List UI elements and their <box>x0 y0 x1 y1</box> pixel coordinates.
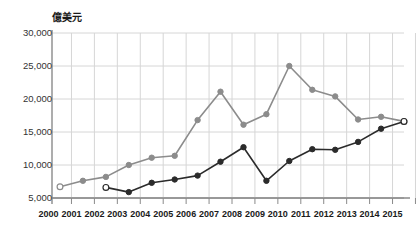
x-axis-tick-labels: 2000200120022003200420052006200720082009… <box>0 0 418 242</box>
x-axis-tick-label: 2012 <box>314 209 334 219</box>
x-axis-tick-label: 2004 <box>130 209 150 219</box>
x-axis-tick-label: 2009 <box>245 209 265 219</box>
x-axis-tick-label: 2011 <box>291 209 311 219</box>
x-axis-tick-label: 2003 <box>107 209 127 219</box>
line-chart: 億美元 30,00025,00020,00015,00010,0005,000 … <box>0 0 418 242</box>
x-axis-tick-label: 2014 <box>360 209 380 219</box>
x-axis-tick-label: 2015 <box>383 209 403 219</box>
x-axis-tick-label: 2002 <box>84 209 104 219</box>
x-axis-tick-label: 2005 <box>153 209 173 219</box>
x-axis-tick-label: 2008 <box>222 209 242 219</box>
x-axis-tick-label: 2010 <box>268 209 288 219</box>
x-axis-tick-label: 2007 <box>199 209 219 219</box>
x-axis-tick-label: 2006 <box>176 209 196 219</box>
x-axis-tick-label: 2000 <box>39 209 59 219</box>
x-axis-tick-label: 2001 <box>61 209 81 219</box>
x-axis-tick-label: 2013 <box>337 209 357 219</box>
